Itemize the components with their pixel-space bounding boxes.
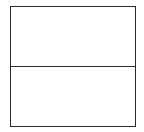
diagram-canvas [0,0,144,132]
bottom-cell [11,67,135,126]
two-cell-box [10,6,136,127]
top-cell [11,7,135,67]
